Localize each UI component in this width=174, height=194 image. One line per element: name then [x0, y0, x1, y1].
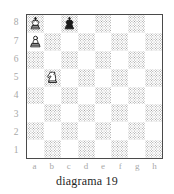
board-square-c3[interactable]	[61, 104, 78, 122]
board-square-e7[interactable]	[95, 33, 112, 51]
board-square-d7[interactable]	[78, 33, 95, 51]
board-square-d3[interactable]	[78, 104, 95, 122]
board-square-b2[interactable]	[44, 122, 61, 140]
board-square-e6[interactable]	[95, 51, 112, 69]
board-square-h2[interactable]	[145, 122, 162, 140]
board-square-f6[interactable]	[111, 51, 128, 69]
board-square-a1[interactable]	[27, 140, 44, 158]
board-square-b1[interactable]	[44, 140, 61, 158]
board-square-d1[interactable]	[78, 140, 95, 158]
board-square-c5[interactable]	[61, 69, 78, 87]
rank-label-1: 1	[8, 142, 24, 160]
board-square-h7[interactable]	[145, 33, 162, 51]
figure-caption: diagrama 19	[0, 174, 174, 189]
board-square-c7[interactable]	[61, 33, 78, 51]
rank-label-7: 7	[8, 32, 24, 50]
white-pawn-icon[interactable]	[27, 33, 44, 51]
board-square-g3[interactable]	[128, 104, 145, 122]
board-square-d8[interactable]	[78, 15, 95, 33]
board-square-f8[interactable]	[111, 15, 128, 33]
board-square-a2[interactable]	[27, 122, 44, 140]
board-square-e2[interactable]	[95, 122, 112, 140]
board-square-h8[interactable]	[145, 15, 162, 33]
board-square-f7[interactable]	[111, 33, 128, 51]
file-label-g: g	[129, 160, 146, 173]
board-square-h6[interactable]	[145, 51, 162, 69]
file-label-d: d	[77, 160, 94, 173]
board-square-d6[interactable]	[78, 51, 95, 69]
board-square-c1[interactable]	[61, 140, 78, 158]
board-square-g8[interactable]	[128, 15, 145, 33]
board-square-g2[interactable]	[128, 122, 145, 140]
board-square-a8[interactable]	[27, 15, 44, 33]
board-square-g6[interactable]	[128, 51, 145, 69]
white-knight-icon[interactable]	[44, 69, 61, 87]
board-square-e3[interactable]	[95, 104, 112, 122]
rank-label-4: 4	[8, 87, 24, 105]
board-square-h1[interactable]	[145, 140, 162, 158]
board-square-e8[interactable]	[95, 15, 112, 33]
board-square-a4[interactable]	[27, 87, 44, 105]
rank-label-3: 3	[8, 105, 24, 123]
board-square-c6[interactable]	[61, 51, 78, 69]
board-square-d4[interactable]	[78, 87, 95, 105]
chess-diagram-figure: 8 7 6 5 4 3 2 1 a b c d e f g h diagrama…	[0, 0, 174, 194]
white-king-icon[interactable]	[27, 15, 44, 33]
file-label-h: h	[146, 160, 163, 173]
board-square-c4[interactable]	[61, 87, 78, 105]
file-label-b: b	[43, 160, 60, 173]
board-square-f1[interactable]	[111, 140, 128, 158]
board-square-b5[interactable]	[44, 69, 61, 87]
rank-coordinate-labels: 8 7 6 5 4 3 2 1	[8, 14, 24, 160]
board-square-g5[interactable]	[128, 69, 145, 87]
rank-label-6: 6	[8, 51, 24, 69]
chess-board	[26, 14, 163, 159]
board-square-a7[interactable]	[27, 33, 44, 51]
board-square-d5[interactable]	[78, 69, 95, 87]
board-square-g4[interactable]	[128, 87, 145, 105]
board-square-b8[interactable]	[44, 15, 61, 33]
board-square-b4[interactable]	[44, 87, 61, 105]
board-square-g7[interactable]	[128, 33, 145, 51]
chess-board-grid	[27, 15, 162, 158]
board-square-d2[interactable]	[78, 122, 95, 140]
board-square-f4[interactable]	[111, 87, 128, 105]
rank-label-2: 2	[8, 124, 24, 142]
board-square-h5[interactable]	[145, 69, 162, 87]
file-coordinate-labels: a b c d e f g h	[26, 160, 163, 173]
board-square-a6[interactable]	[27, 51, 44, 69]
board-square-a3[interactable]	[27, 104, 44, 122]
file-label-c: c	[60, 160, 77, 173]
board-square-e1[interactable]	[95, 140, 112, 158]
board-square-a5[interactable]	[27, 69, 44, 87]
file-label-a: a	[26, 160, 43, 173]
rank-label-8: 8	[8, 14, 24, 32]
board-square-f5[interactable]	[111, 69, 128, 87]
board-square-f2[interactable]	[111, 122, 128, 140]
file-label-e: e	[95, 160, 112, 173]
board-square-h3[interactable]	[145, 104, 162, 122]
board-square-f3[interactable]	[111, 104, 128, 122]
rank-label-5: 5	[8, 69, 24, 87]
board-square-c8[interactable]	[61, 15, 78, 33]
board-square-b3[interactable]	[44, 104, 61, 122]
board-square-c2[interactable]	[61, 122, 78, 140]
board-square-e5[interactable]	[95, 69, 112, 87]
board-square-e4[interactable]	[95, 87, 112, 105]
file-label-f: f	[112, 160, 129, 173]
black-king-icon[interactable]	[61, 15, 78, 33]
board-square-g1[interactable]	[128, 140, 145, 158]
board-square-b7[interactable]	[44, 33, 61, 51]
board-square-h4[interactable]	[145, 87, 162, 105]
board-square-b6[interactable]	[44, 51, 61, 69]
